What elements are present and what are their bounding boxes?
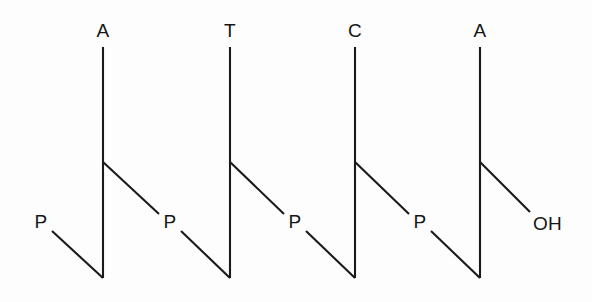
base-stem-lines-group: [103, 47, 480, 278]
leading-phosphate-to-base-1: [52, 231, 103, 278]
terminal-hydroxyl-label: OH: [533, 214, 562, 233]
base-label-1: A: [97, 21, 110, 40]
phosphate-label-3: P: [289, 212, 302, 231]
phosphate-4-to-base-4: [431, 231, 480, 278]
base-2-branch-to-phosphate-3: [230, 162, 284, 214]
phosphate-2-to-base-2: [181, 231, 230, 278]
base-4-branch-to-terminal-oh: [480, 162, 530, 212]
base-1-branch-to-phosphate-2: [103, 162, 159, 214]
phosphate-label-2: P: [164, 212, 177, 231]
phosphate-label-1: P: [35, 212, 48, 231]
phosphate-label-4: P: [414, 212, 427, 231]
base-3-branch-to-phosphate-4: [355, 162, 409, 214]
backbone-diagram-svg: [0, 0, 592, 302]
phosphate-3-to-base-3: [306, 231, 355, 278]
nucleic-acid-backbone-figure: ATCA PPPP OH: [0, 0, 592, 302]
base-label-2: T: [224, 21, 236, 40]
base-label-3: C: [348, 21, 362, 40]
base-label-4: A: [474, 21, 487, 40]
